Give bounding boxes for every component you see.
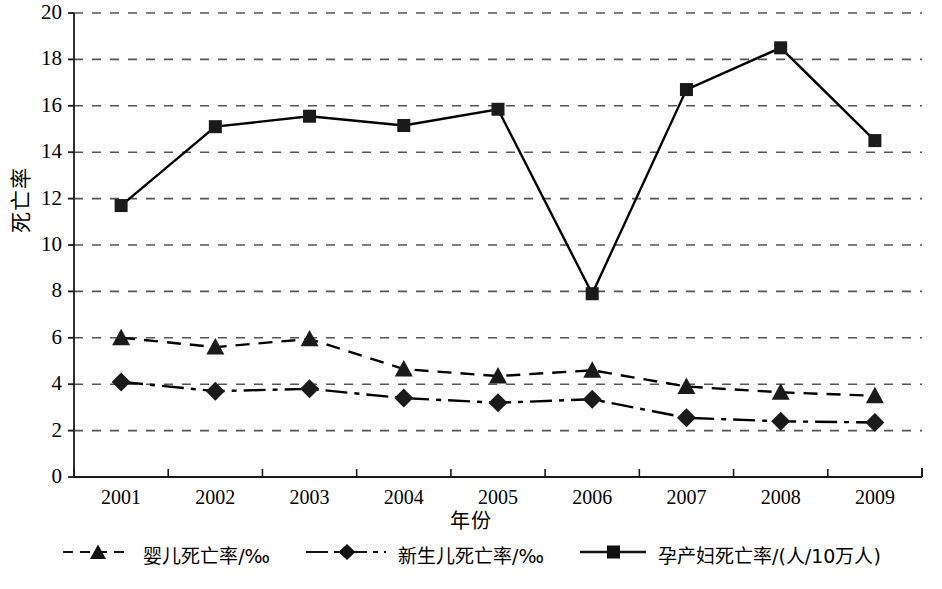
x-tick-label: 2007 (641, 487, 731, 507)
data-point-diamond (112, 372, 131, 391)
data-point-triangle (866, 387, 884, 403)
x-tick-label: 2004 (359, 487, 449, 507)
legend-item-maternal-mortality: 孕产妇死亡率/(人/10万人) (578, 541, 881, 568)
y-tick-label: 8 (22, 280, 62, 301)
x-tick-label: 2002 (170, 487, 260, 507)
legend-item-neonatal-mortality: 新生儿死亡率/‰ (304, 541, 544, 568)
data-point-square (586, 287, 599, 300)
y-tick-label: 4 (22, 373, 62, 394)
x-tick-label: 2008 (736, 487, 826, 507)
data-point-diamond (677, 408, 696, 427)
data-point-diamond (583, 390, 602, 409)
square-marker-icon (578, 542, 650, 566)
series-1 (112, 329, 884, 403)
data-point-diamond (300, 379, 319, 398)
y-tick-label: 12 (22, 188, 62, 209)
data-point-square (774, 41, 787, 54)
diamond-marker-icon (304, 542, 390, 566)
series-line (121, 48, 875, 294)
y-tick-label: 6 (22, 327, 62, 348)
data-point-square (492, 103, 505, 116)
y-tick-label: 10 (22, 234, 62, 255)
x-tick-label: 2003 (265, 487, 355, 507)
y-tick-label: 16 (22, 95, 62, 116)
data-point-diamond (865, 413, 884, 432)
x-tick-label: 2006 (547, 487, 637, 507)
mortality-rate-line-chart: 死亡率 年份 婴儿死亡率/‰ 新生儿死亡率/‰ (0, 0, 942, 589)
data-point-square (397, 119, 410, 132)
x-axis-title: 年份 (0, 505, 942, 534)
data-point-square (680, 83, 693, 96)
data-point-square (209, 120, 222, 133)
x-tick-label: 2009 (830, 487, 920, 507)
legend-label-neonatal-mortality: 新生儿死亡率/‰ (398, 541, 544, 568)
series-3 (115, 41, 882, 300)
y-tick-label: 14 (22, 141, 62, 162)
y-tick-label: 18 (22, 48, 62, 69)
y-tick-label: 20 (22, 2, 62, 23)
series-line (121, 338, 875, 396)
y-tick-label: 0 (22, 466, 62, 487)
data-point-diamond (489, 393, 508, 412)
legend-label-maternal-mortality: 孕产妇死亡率/(人/10万人) (658, 541, 881, 568)
x-tick-label: 2001 (76, 487, 166, 507)
data-point-square (303, 110, 316, 123)
x-tick-label: 2005 (453, 487, 543, 507)
chart-legend: 婴儿死亡率/‰ 新生儿死亡率/‰ 孕产妇死亡率/(人/10万人) (0, 534, 942, 574)
y-tick-label: 2 (22, 420, 62, 441)
data-point-triangle (112, 329, 130, 345)
data-point-square (115, 199, 128, 212)
triangle-marker-icon (61, 542, 135, 566)
data-point-square (868, 134, 881, 147)
data-point-diamond (771, 412, 790, 431)
legend-label-infant-mortality: 婴儿死亡率/‰ (143, 541, 270, 568)
data-point-diamond (394, 389, 413, 408)
legend-item-infant-mortality: 婴儿死亡率/‰ (61, 541, 270, 568)
